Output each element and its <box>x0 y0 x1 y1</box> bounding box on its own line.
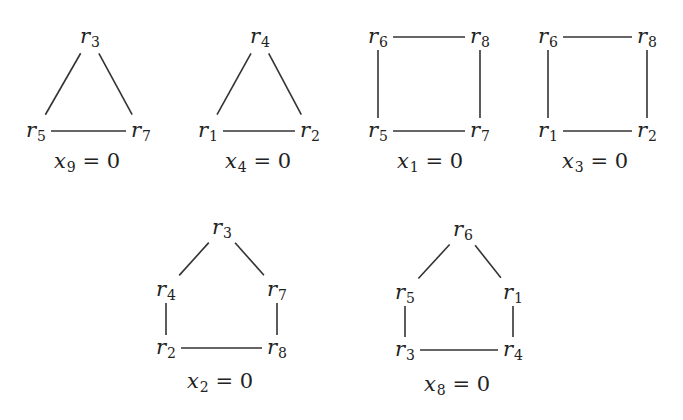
node-symbol: r <box>26 118 36 142</box>
caption-subscript: 1 <box>410 159 419 175</box>
node-subscript: 3 <box>406 347 415 363</box>
node-r4: r4 <box>503 339 523 362</box>
node-r7: r7 <box>470 120 490 143</box>
node-r4: r4 <box>250 26 270 49</box>
node-symbol: r <box>637 24 647 48</box>
edge-r3-r4 <box>179 243 209 276</box>
graph-x4 <box>217 53 301 131</box>
graph-x1 <box>378 37 480 131</box>
node-subscript: 8 <box>278 345 287 361</box>
node-subscript: 4 <box>514 347 523 363</box>
edge-r6-r1 <box>475 245 501 277</box>
node-r3: r3 <box>80 26 100 49</box>
node-r5: r5 <box>26 120 46 143</box>
caption-subscript: 9 <box>67 159 76 175</box>
node-r4: r4 <box>156 279 176 302</box>
node-symbol: r <box>156 335 166 359</box>
node-symbol: r <box>470 118 480 142</box>
edge-r4-r2 <box>269 53 302 114</box>
node-subscript: 8 <box>648 34 657 50</box>
node-subscript: 7 <box>142 128 151 144</box>
node-r1: r1 <box>198 120 218 143</box>
graph-caption: x1 = 0 <box>397 151 463 174</box>
node-symbol: r <box>80 24 90 48</box>
node-symbol: r <box>267 335 277 359</box>
node-subscript: 1 <box>514 290 523 306</box>
node-subscript: 6 <box>379 34 388 50</box>
edge-r3-r5 <box>45 53 80 114</box>
node-r7: r7 <box>267 279 287 302</box>
node-symbol: r <box>368 118 378 142</box>
node-symbol: r <box>212 215 222 239</box>
node-symbol: r <box>453 217 463 241</box>
node-subscript: 1 <box>209 128 218 144</box>
caption-equation-rest: = 0 <box>209 369 253 393</box>
graph-caption: x2 = 0 <box>187 371 253 394</box>
node-r1: r1 <box>538 120 558 143</box>
node-r1: r1 <box>503 282 523 305</box>
node-r7: r7 <box>131 120 151 143</box>
node-r5: r5 <box>395 282 415 305</box>
caption-equation-rest: = 0 <box>76 149 120 173</box>
graph-caption: x8 = 0 <box>424 374 490 397</box>
node-symbol: r <box>538 118 548 142</box>
node-symbol: r <box>250 24 260 48</box>
node-symbol: r <box>368 24 378 48</box>
node-r8: r8 <box>637 26 657 49</box>
node-subscript: 8 <box>481 34 490 50</box>
node-subscript: 6 <box>549 34 558 50</box>
node-r6: r6 <box>453 219 473 242</box>
caption-subscript: 4 <box>238 159 247 175</box>
node-r2: r2 <box>300 120 320 143</box>
edge-r3-r7 <box>235 243 264 276</box>
node-symbol: r <box>300 118 310 142</box>
node-subscript: 6 <box>464 227 473 243</box>
caption-subscript: 8 <box>437 382 446 398</box>
node-r2: r2 <box>637 120 657 143</box>
edge-r6-r5 <box>418 245 449 279</box>
edge-r4-r1 <box>217 53 251 114</box>
node-subscript: 4 <box>261 34 270 50</box>
node-symbol: r <box>395 280 405 304</box>
caption-equation-rest: = 0 <box>584 149 628 173</box>
caption-variable: x <box>562 149 574 173</box>
node-subscript: 7 <box>481 128 490 144</box>
node-symbol: r <box>470 24 480 48</box>
node-symbol: r <box>503 337 513 361</box>
caption-variable: x <box>397 149 409 173</box>
graph-x2 <box>166 243 277 348</box>
node-subscript: 5 <box>37 128 46 144</box>
node-r5: r5 <box>368 120 388 143</box>
node-subscript: 7 <box>278 287 287 303</box>
graph-x9 <box>45 53 132 131</box>
caption-variable: x <box>54 149 66 173</box>
node-r3: r3 <box>395 339 415 362</box>
graph-caption: x9 = 0 <box>54 151 120 174</box>
node-subscript: 1 <box>549 128 558 144</box>
node-r3: r3 <box>212 217 232 240</box>
node-symbol: r <box>538 24 548 48</box>
node-r8: r8 <box>267 337 287 360</box>
node-symbol: r <box>395 337 405 361</box>
node-subscript: 2 <box>311 128 320 144</box>
node-symbol: r <box>131 118 141 142</box>
node-subscript: 4 <box>167 287 176 303</box>
caption-subscript: 2 <box>200 379 209 395</box>
node-r6: r6 <box>368 26 388 49</box>
node-subscript: 3 <box>223 225 232 241</box>
caption-equation-rest: = 0 <box>419 149 463 173</box>
node-r2: r2 <box>156 337 176 360</box>
caption-variable: x <box>187 369 199 393</box>
node-subscript: 5 <box>406 290 415 306</box>
node-subscript: 5 <box>379 128 388 144</box>
graph-x3 <box>548 37 647 131</box>
node-symbol: r <box>267 277 277 301</box>
node-subscript: 2 <box>648 128 657 144</box>
node-symbol: r <box>503 280 513 304</box>
node-r6: r6 <box>538 26 558 49</box>
caption-equation-rest: = 0 <box>446 372 490 396</box>
graph-caption: x4 = 0 <box>225 151 291 174</box>
edge-r3-r7 <box>99 53 132 114</box>
graph-x8 <box>405 245 513 350</box>
caption-variable: x <box>424 372 436 396</box>
